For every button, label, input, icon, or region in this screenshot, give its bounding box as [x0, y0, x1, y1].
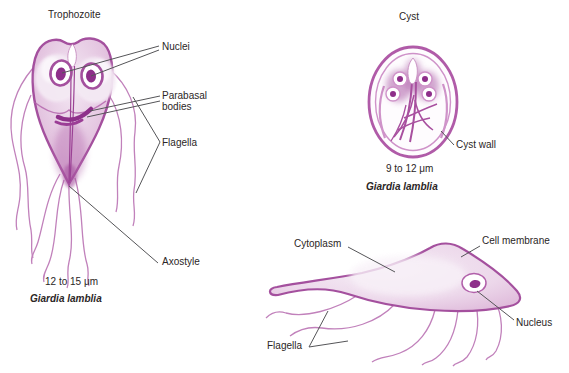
parabasal-bodies-label: Parabasal bodies: [162, 90, 220, 112]
nucleus-side-label: Nucleus: [516, 317, 552, 328]
cell-membrane-label: Cell membrane: [482, 235, 550, 246]
cyst-title: Cyst: [399, 11, 419, 22]
flagella-front-label: Flagella: [162, 137, 197, 148]
giardia-lamblia-figure: Trophozoite Nuclei Parabasal bodies Flag…: [0, 0, 569, 373]
giardia-illustrations: [0, 0, 569, 373]
trophozoite-size-label: 12 to 15 μm: [45, 276, 98, 287]
cyst-wall-label: Cyst wall: [456, 139, 496, 150]
nuclei-label: Nuclei: [162, 41, 190, 52]
cytoplasm-label: Cytoplasm: [294, 238, 341, 249]
trophozoite-side-nucleus: [462, 274, 486, 293]
trophozoite-side-illustration: [266, 244, 520, 366]
trophozoite-title: Trophozoite: [48, 9, 100, 20]
flagella-side-label: Flagella: [267, 340, 302, 351]
axostyle-label: Axostyle: [162, 256, 200, 267]
trophozoite-front-illustration: [11, 38, 136, 288]
cyst-illustration: [369, 47, 457, 157]
cyst-species-name: Giardia lamblia: [366, 181, 438, 192]
cyst-size-label: 9 to 12 μm: [386, 163, 433, 174]
trophozoite-species-name: Giardia lamblia: [30, 293, 102, 304]
